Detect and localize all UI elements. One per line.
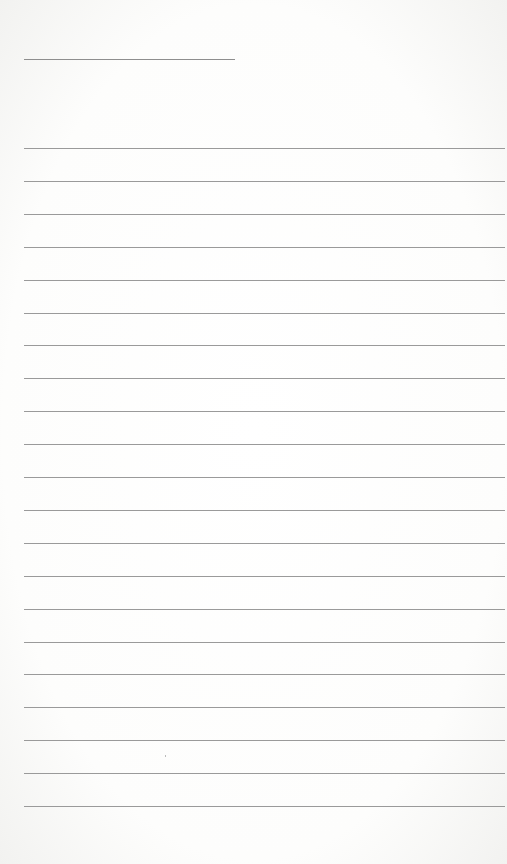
ruled-line [24,280,505,281]
ruled-line [24,411,505,412]
ruled-line [24,214,505,215]
ruled-line [24,345,505,346]
ruled-line [24,740,505,741]
ruled-line [24,510,505,511]
ruled-line [24,181,505,182]
ruled-line [24,477,505,478]
ruled-line [24,609,505,610]
ruled-line [24,148,505,149]
lined-paper-page [0,0,507,864]
ruled-line [24,576,505,577]
ruled-line [24,707,505,708]
ruled-line [24,773,505,774]
ruled-line [24,378,505,379]
ruled-line [24,444,505,445]
ruled-line [24,806,505,807]
paper-speck [165,755,166,757]
ruled-line [24,543,505,544]
ruled-line [24,313,505,314]
ruled-line [24,642,505,643]
name-header-line [24,59,235,60]
ruled-line [24,247,505,248]
ruled-line [24,674,505,675]
